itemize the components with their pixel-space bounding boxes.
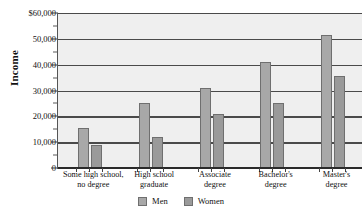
legend-item-women[interactable]: Women — [184, 196, 224, 206]
y-axis-tick-label: 50,000 — [0, 34, 56, 44]
y-axis-line — [57, 13, 58, 169]
legend-swatch-men — [138, 197, 147, 206]
x-axis-label-1: Some high school,no degree — [63, 170, 124, 190]
y-axis-tick-label: 0 — [0, 163, 56, 173]
x-axis-label-2: High schoolgraduate — [124, 170, 185, 190]
x-axis-label-line: no degree — [63, 180, 124, 190]
x-axis-category-labels: Some high school,no degreeHigh schoolgra… — [58, 170, 362, 194]
x-axis-label-4: Bachelor'sdegree — [245, 170, 306, 190]
income-by-education-bar-chart: Income 010,00020,00030,00040,00050,000$6… — [0, 0, 362, 218]
gridline — [58, 13, 362, 14]
y-axis-tick-label: 30,000 — [0, 86, 56, 96]
y-axis-tick-label: 40,000 — [0, 60, 56, 70]
legend-swatch-women — [184, 197, 193, 206]
legend-label: Men — [152, 196, 168, 206]
x-axis-label-line: Some high school, — [63, 170, 124, 180]
x-axis-label-3: Associatedegree — [185, 170, 246, 190]
legend-label: Women — [198, 196, 224, 206]
chart-legend: MenWomen — [0, 196, 362, 206]
x-axis-label-5: Master'sdegree — [306, 170, 362, 190]
bar-men-5 — [321, 35, 332, 168]
plot-area — [58, 13, 362, 168]
legend-item-men[interactable]: Men — [138, 196, 168, 206]
bar-men-4 — [260, 62, 271, 168]
bar-men-1 — [78, 128, 89, 168]
x-axis-label-line: Associate — [185, 170, 246, 180]
bar-women-2 — [152, 137, 163, 168]
bar-men-3 — [200, 88, 211, 168]
x-axis-label-line: Bachelor's — [245, 170, 306, 180]
gridline — [58, 65, 362, 66]
x-axis-label-line: degree — [306, 180, 362, 190]
bar-women-1 — [91, 145, 102, 168]
y-axis-tick-label: $60,000 — [0, 8, 56, 18]
y-axis-tick-labels: 010,00020,00030,00040,00050,000$60,000 — [0, 0, 56, 175]
bar-men-2 — [139, 103, 150, 168]
x-axis-label-line: graduate — [124, 180, 185, 190]
x-axis-label-line: degree — [245, 180, 306, 190]
gridline — [58, 39, 362, 40]
bar-women-4 — [273, 103, 284, 168]
x-axis-label-line: High school — [124, 170, 185, 180]
y-axis-tick-label: 10,000 — [0, 137, 56, 147]
y-axis-tick-label: 20,000 — [0, 111, 56, 121]
x-axis-label-line: degree — [185, 180, 246, 190]
bar-women-5 — [334, 76, 345, 168]
bar-women-3 — [213, 114, 224, 168]
x-axis-label-line: Master's — [306, 170, 362, 180]
